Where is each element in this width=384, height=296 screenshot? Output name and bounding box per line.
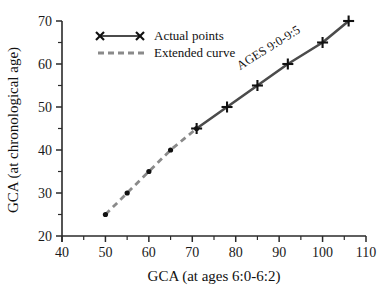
chart-svg: 203040506070 405060708090100110 AGES 9:0… bbox=[0, 0, 384, 296]
x-tick-labels: 405060708090100110 bbox=[55, 245, 376, 260]
legend-label-extended-curve: Extended curve bbox=[154, 45, 235, 60]
y-tick-label: 60 bbox=[38, 57, 52, 72]
x-tick-label: 110 bbox=[356, 245, 376, 260]
data-point-marker bbox=[146, 169, 151, 174]
x-axis-title: GCA (at ages 6:0-6:2) bbox=[148, 268, 281, 285]
annotation-ages-label: AGES 9:0-9:5 bbox=[234, 23, 302, 73]
axis-y: 203040506070 bbox=[38, 14, 62, 244]
y-axis-title: GCA (at chronological age) bbox=[5, 47, 22, 213]
x-tick-label: 80 bbox=[229, 245, 243, 260]
y-tick-label: 70 bbox=[38, 14, 52, 29]
chart-legend: Actual points Extended curve bbox=[96, 28, 235, 60]
y-tick-label: 20 bbox=[38, 229, 52, 244]
y-tick-labels: 203040506070 bbox=[38, 14, 52, 244]
legend-label-actual-points: Actual points bbox=[154, 28, 224, 43]
legend-entry-extended-curve: Extended curve bbox=[98, 45, 235, 60]
data-point-marker bbox=[103, 212, 108, 217]
legend-entry-actual-points: Actual points bbox=[96, 28, 224, 43]
chart-container: 203040506070 405060708090100110 AGES 9:0… bbox=[0, 0, 384, 296]
x-tick-label: 90 bbox=[272, 245, 286, 260]
data-point-marker bbox=[125, 190, 130, 195]
x-tick-label: 50 bbox=[98, 245, 112, 260]
x-tick-label: 40 bbox=[55, 245, 69, 260]
y-tick-label: 40 bbox=[38, 143, 52, 158]
axis-x: 405060708090100110 bbox=[55, 236, 376, 260]
x-tick-label: 100 bbox=[312, 245, 333, 260]
data-point-marker bbox=[168, 147, 173, 152]
y-tick-label: 30 bbox=[38, 186, 52, 201]
annotation-text: AGES 9:0-9:5 bbox=[234, 23, 302, 73]
y-tick-label: 50 bbox=[38, 100, 52, 115]
x-tick-label: 70 bbox=[185, 245, 199, 260]
x-tick-label: 60 bbox=[142, 245, 156, 260]
